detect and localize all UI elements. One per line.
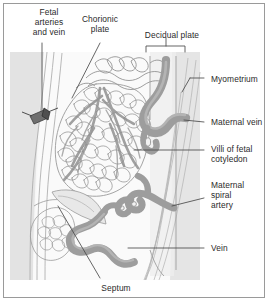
chorionic-plate-label: Chorionic plate <box>71 14 129 34</box>
placenta-diagram-figure: Fetal arteries and vein Chorionic plate … <box>0 0 269 302</box>
decidual-plate-label: Decidual plate <box>134 30 210 40</box>
villi-of-fetal-cotyledon-label: Villi of fetal cotyledon <box>211 144 269 164</box>
myometrium-label: Myometrium <box>211 74 269 84</box>
maternal-spiral-artery-label: Maternal spiral artery <box>211 180 269 211</box>
maternal-vein-label: Maternal vein <box>211 117 269 127</box>
septum-label: Septum <box>86 283 146 293</box>
vein-label: Vein <box>211 243 269 253</box>
